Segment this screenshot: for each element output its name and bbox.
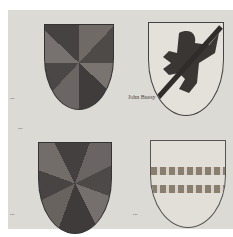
annotation-3: ... (18, 124, 23, 131)
shield-griffin (148, 22, 224, 116)
shield-gyronny-bottom (38, 142, 112, 234)
fusilly-bar-2 (151, 185, 225, 193)
fusilly-bar-1 (151, 167, 225, 175)
annotation-4: ... (10, 210, 15, 217)
shield-gyronny-top (44, 24, 114, 110)
annotation-2: John Bussy (128, 94, 156, 101)
annotation-5: ... (133, 210, 138, 217)
annotation-1: ... (10, 94, 15, 101)
shield-fusilly-bars (150, 140, 226, 228)
griffin-icon (149, 23, 223, 115)
manuscript-page: ... John Bussy ... ... ... (8, 10, 233, 229)
